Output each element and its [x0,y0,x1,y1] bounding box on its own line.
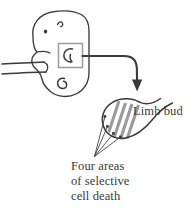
limb-bud-label: Limb bud [133,104,183,119]
leader-lines-icon [95,115,122,156]
cell-death-caption: Four areas of selective cell death [71,159,129,203]
embryo-eye-icon [44,30,47,34]
curved-arrow-icon [83,56,143,92]
caption-line-2: of selective [71,174,129,189]
embryo-outline-icon [32,11,89,96]
caption-line-3: cell death [71,189,129,204]
figure-root: Limb bud Four areas of selective cell de… [0,0,193,212]
caption-line-1: Four areas [71,159,129,174]
